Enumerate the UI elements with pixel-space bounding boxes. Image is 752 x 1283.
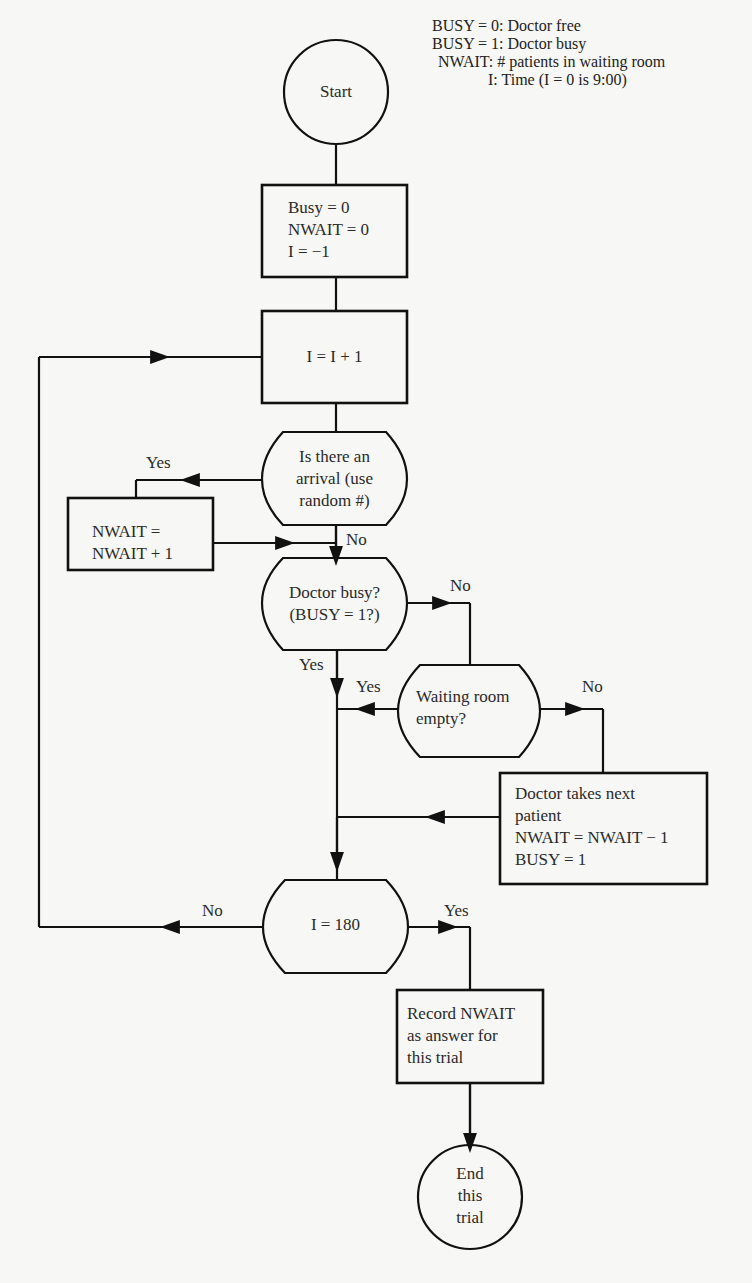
edge-label-empty-yes: Yes — [356, 676, 381, 698]
doctor-busy-line-1: Doctor busy? — [262, 582, 407, 604]
legend-item-busy1: BUSY = 1: Doctor busy — [432, 35, 665, 53]
arrival-line-3: random #) — [262, 490, 407, 512]
add-wait-line-1: NWAIT = — [92, 521, 173, 543]
end-line-2: this — [430, 1185, 510, 1207]
end-node-text: End this trial — [430, 1163, 510, 1229]
doctor-takes-box-text: Doctor takes next patient NWAIT = NWAIT … — [515, 783, 669, 871]
doctor-takes-line-2: patient — [515, 805, 669, 827]
record-box-text: Record NWAIT as answer for this trial — [407, 1003, 515, 1069]
end-line-3: trial — [430, 1207, 510, 1229]
doctor-takes-line-4: BUSY = 1 — [515, 849, 669, 871]
check-end-label: I = 180 — [263, 914, 408, 936]
edge-label-empty-no: No — [582, 676, 603, 698]
doctor-takes-line-3: NWAIT = NWAIT − 1 — [515, 827, 669, 849]
edge-label-busy-no: No — [450, 575, 471, 597]
legend: BUSY = 0: Doctor free BUSY = 1: Doctor b… — [432, 17, 665, 89]
edge-label-arrival-yes: Yes — [146, 452, 171, 474]
waiting-empty-line-1: Waiting room — [416, 686, 510, 708]
add-wait-box-text: NWAIT = NWAIT + 1 — [92, 521, 173, 565]
init-box-text: Busy = 0 NWAIT = 0 I = −1 — [288, 197, 369, 263]
arrival-line-2: arrival (use — [262, 468, 407, 490]
arrival-line-1: Is there an — [262, 446, 407, 468]
doctor-busy-decision-text: Doctor busy? (BUSY = 1?) — [262, 582, 407, 626]
record-line-2: as answer for — [407, 1025, 515, 1047]
record-line-1: Record NWAIT — [407, 1003, 515, 1025]
init-line-busy: Busy = 0 — [288, 197, 369, 219]
waiting-empty-decision-text: Waiting room empty? — [416, 686, 510, 730]
doctor-busy-line-2: (BUSY = 1?) — [262, 604, 407, 626]
record-line-3: this trial — [407, 1047, 515, 1069]
arrival-decision-text: Is there an arrival (use random #) — [262, 446, 407, 512]
add-wait-line-2: NWAIT + 1 — [92, 543, 173, 565]
edge-label-end-no: No — [202, 900, 223, 922]
init-line-i: I = −1 — [288, 241, 369, 263]
start-node-label: Start — [296, 81, 376, 103]
end-line-1: End — [430, 1163, 510, 1185]
edge-label-busy-yes: Yes — [299, 654, 324, 676]
legend-item-nwait: NWAIT: # patients in waiting room — [438, 53, 665, 71]
waiting-empty-line-2: empty? — [416, 708, 510, 730]
edge-label-arrival-no: No — [346, 529, 367, 551]
doctor-takes-line-1: Doctor takes next — [515, 783, 669, 805]
legend-item-busy0: BUSY = 0: Doctor free — [432, 17, 665, 35]
init-line-nwait: NWAIT = 0 — [288, 219, 369, 241]
increment-box-label: I = I + 1 — [262, 346, 407, 368]
legend-item-time: I: Time (I = 0 is 9:00) — [488, 71, 665, 89]
flowchart-canvas — [0, 0, 752, 1283]
edge-label-end-yes: Yes — [444, 900, 469, 922]
